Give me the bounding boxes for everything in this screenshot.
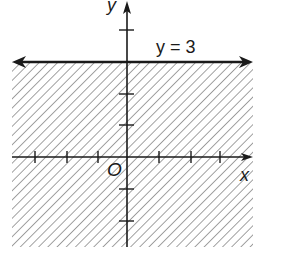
boundary-label: y = 3 bbox=[156, 37, 196, 57]
x-axis-label: x bbox=[239, 165, 250, 185]
origin-label: O bbox=[107, 159, 122, 180]
shaded-region bbox=[12, 62, 253, 247]
inequality-graph: y = 3 y x O bbox=[0, 0, 288, 267]
y-axis-label: y bbox=[105, 0, 117, 15]
